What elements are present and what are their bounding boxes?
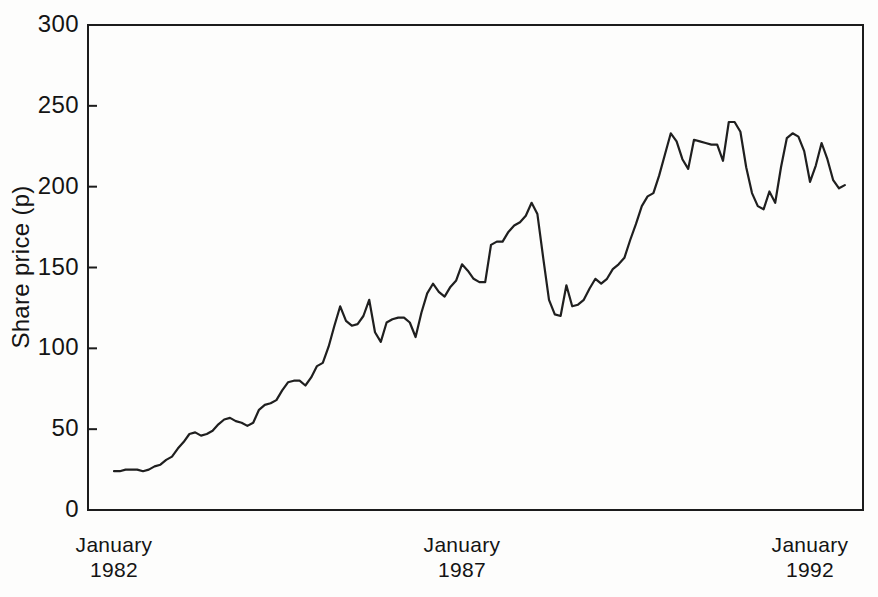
y-tick-label: 50: [0, 415, 79, 443]
y-tick-label: 250: [0, 91, 79, 119]
x-tick-month: January: [772, 532, 849, 557]
y-tick-label: 150: [0, 253, 79, 281]
x-tick-label: January1992: [772, 532, 849, 582]
x-tick-month: January: [76, 532, 153, 557]
y-tick-label: 0: [0, 495, 79, 523]
share-price-line: [114, 122, 845, 471]
share-price-chart: Share price (p) 050100150200250300 Janua…: [0, 0, 878, 597]
x-tick-label: January1982: [76, 532, 153, 582]
x-tick-year: 1982: [76, 557, 153, 582]
x-tick-year: 1987: [424, 557, 501, 582]
y-axis-ticks: [88, 25, 97, 510]
y-tick-label: 100: [0, 334, 79, 362]
plot-area-border: [88, 25, 863, 510]
y-tick-label: 300: [0, 10, 79, 38]
chart-canvas: [0, 0, 878, 597]
x-tick-year: 1992: [772, 557, 849, 582]
y-tick-label: 200: [0, 172, 79, 200]
x-tick-month: January: [424, 532, 501, 557]
x-tick-label: January1987: [424, 532, 501, 582]
